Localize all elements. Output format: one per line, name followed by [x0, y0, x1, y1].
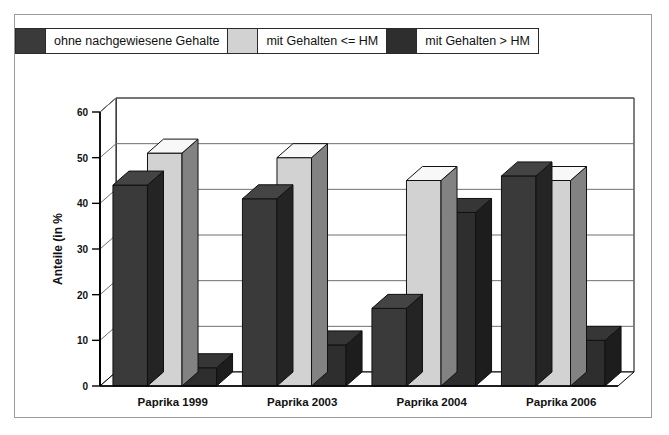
- legend-entry-mit-gehalten-gt-hm[interactable]: mit Gehalten > HM: [387, 29, 538, 53]
- legend-label-2: mit Gehalten <= HM: [258, 29, 387, 53]
- figure-border: [14, 14, 652, 418]
- legend-entry-mit-gehalten-lte-hm[interactable]: mit Gehalten <= HM: [228, 29, 387, 53]
- legend-label-1: ohne nachgewiesene Gehalte: [46, 29, 228, 53]
- legend-entry-ohne-nachgewiesene-gehalte[interactable]: ohne nachgewiesene Gehalte: [16, 29, 228, 53]
- legend-label-3: mit Gehalten > HM: [417, 29, 538, 53]
- legend-swatch-dark-gray-icon: [16, 29, 46, 53]
- chart-screenshot: ohne nachgewiesene Gehalte mit Gehalten …: [0, 0, 669, 435]
- chart-legend: ohne nachgewiesene Gehalte mit Gehalten …: [15, 28, 539, 54]
- legend-swatch-light-gray-icon: [228, 29, 258, 53]
- legend-swatch-black-icon: [387, 29, 417, 53]
